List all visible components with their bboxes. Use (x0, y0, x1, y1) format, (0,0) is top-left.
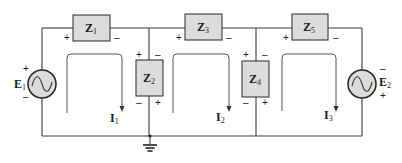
z2-bottom-minus: – (136, 97, 142, 108)
z2-bottom-plus: + (155, 97, 161, 108)
z4-top-plus: + (243, 49, 249, 60)
z4-top-minus: – (262, 49, 268, 60)
mesh-current-i1: I1 (67, 54, 125, 126)
e2-plus: + (380, 90, 386, 101)
z1-plus: + (64, 32, 70, 43)
z1-minus: – (114, 32, 120, 43)
svg-text:I3: I3 (324, 108, 333, 123)
z4-bottom-minus: – (243, 97, 249, 108)
e1-plus: + (23, 63, 29, 74)
svg-text:I2: I2 (216, 110, 225, 125)
e1-minus: – (23, 91, 29, 102)
z5-minus: – (333, 32, 339, 43)
z3-plus: + (176, 32, 182, 43)
wires (42, 28, 362, 136)
impedance-z1: Z1 + – (64, 15, 120, 43)
source-e1: E1 + – (14, 63, 56, 102)
z2-top-plus: + (136, 49, 142, 60)
source-e2: E2 – + (348, 63, 391, 101)
z3-minus: – (226, 32, 232, 43)
e2-minus: – (380, 63, 386, 74)
svg-text:I1: I1 (110, 111, 119, 126)
ground-icon (143, 134, 157, 151)
mesh-current-i3: I3 (282, 54, 339, 123)
mesh-current-i2: I2 (173, 54, 232, 125)
z2-top-minus: – (155, 49, 161, 60)
svg-text:E2: E2 (379, 75, 391, 90)
z4-bottom-plus: + (262, 97, 268, 108)
circuit-diagram: Z1 + – Z3 + – Z5 + – Z2 + – – + Z4 + – –… (0, 0, 402, 163)
svg-text:E1: E1 (14, 77, 26, 92)
z5-plus: + (283, 32, 289, 43)
